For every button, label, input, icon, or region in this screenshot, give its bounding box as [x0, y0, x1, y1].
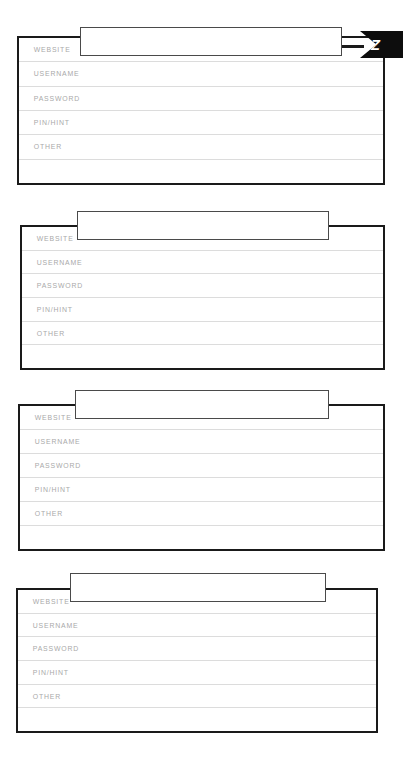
card-title-input[interactable]: [78, 212, 328, 239]
password-entry-card: WEBSITE USERNAME PASSWORD PIN/HINT OTHER: [16, 588, 378, 733]
row-label-pin-hint: PIN/HINT: [19, 118, 70, 127]
row-label-password: PASSWORD: [18, 644, 79, 653]
table-row[interactable]: USERNAME: [22, 251, 383, 275]
row-label-pin-hint: PIN/HINT: [20, 485, 71, 494]
card-title-box[interactable]: [75, 390, 329, 419]
password-entry-card: WEBSITE USERNAME PASSWORD PIN/HINT OTHER: [20, 225, 385, 370]
table-row[interactable]: PIN/HINT: [22, 298, 383, 322]
row-label-password: PASSWORD: [22, 281, 83, 290]
row-label-other: OTHER: [20, 509, 63, 518]
table-row[interactable]: OTHER: [20, 502, 383, 526]
table-row[interactable]: PIN/HINT: [20, 478, 383, 502]
card-title-box[interactable]: [77, 211, 329, 240]
card-title-box[interactable]: [70, 573, 326, 602]
card-rows: WEBSITE USERNAME PASSWORD PIN/HINT OTHER: [20, 406, 383, 549]
table-row[interactable]: OTHER: [18, 685, 376, 709]
row-label-website: WEBSITE: [18, 597, 70, 606]
card-title-input[interactable]: [71, 574, 325, 601]
table-row-blank[interactable]: [19, 160, 383, 183]
worksheet-sheet: WEBSITE USERNAME PASSWORD PIN/HINT OTHER…: [0, 0, 403, 767]
row-label-username: USERNAME: [20, 437, 80, 446]
row-label-username: USERNAME: [22, 258, 82, 267]
table-row[interactable]: PIN/HINT: [18, 661, 376, 685]
card-title-input[interactable]: [76, 391, 328, 418]
row-label-other: OTHER: [22, 329, 65, 338]
row-label-username: USERNAME: [18, 621, 78, 630]
card-rows: WEBSITE USERNAME PASSWORD PIN/HINT OTHER: [18, 590, 376, 731]
table-row[interactable]: PASSWORD: [20, 454, 383, 478]
password-entry-card: WEBSITE USERNAME PASSWORD PIN/HINT OTHER: [18, 404, 385, 551]
row-label-password: PASSWORD: [20, 461, 81, 470]
row-label-website: WEBSITE: [19, 45, 71, 54]
row-label-website: WEBSITE: [22, 234, 74, 243]
card-title-input[interactable]: [81, 28, 341, 55]
table-row[interactable]: PASSWORD: [22, 274, 383, 298]
row-label-pin-hint: PIN/HINT: [22, 305, 73, 314]
table-row-blank[interactable]: [18, 708, 376, 731]
table-row[interactable]: USERNAME: [20, 430, 383, 454]
row-label-password: PASSWORD: [19, 94, 80, 103]
table-row-blank[interactable]: [20, 526, 383, 549]
card-rows: WEBSITE USERNAME PASSWORD PIN/HINT OTHER: [19, 38, 383, 183]
row-label-other: OTHER: [18, 692, 61, 701]
table-row[interactable]: PASSWORD: [19, 87, 383, 111]
table-row[interactable]: USERNAME: [18, 614, 376, 638]
password-entry-card: WEBSITE USERNAME PASSWORD PIN/HINT OTHER: [17, 36, 385, 185]
row-label-pin-hint: PIN/HINT: [18, 668, 69, 677]
table-row-blank[interactable]: [22, 345, 383, 368]
table-row[interactable]: OTHER: [19, 135, 383, 159]
table-row[interactable]: OTHER: [22, 322, 383, 346]
table-row[interactable]: PIN/HINT: [19, 111, 383, 135]
table-row[interactable]: PASSWORD: [18, 637, 376, 661]
card-rows: WEBSITE USERNAME PASSWORD PIN/HINT OTHER: [22, 227, 383, 368]
row-label-username: USERNAME: [19, 69, 79, 78]
table-row[interactable]: USERNAME: [19, 62, 383, 86]
card-title-box[interactable]: [80, 27, 342, 56]
row-label-website: WEBSITE: [20, 413, 72, 422]
row-label-other: OTHER: [19, 142, 62, 151]
